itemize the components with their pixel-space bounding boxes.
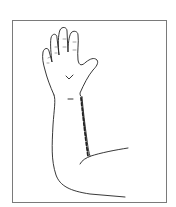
- arm-illustration: [0, 0, 176, 207]
- incision-line: [81, 98, 88, 156]
- forearm-outline-left: [52, 95, 125, 197]
- palm-mark: [66, 75, 73, 79]
- hand-outline: [43, 27, 98, 97]
